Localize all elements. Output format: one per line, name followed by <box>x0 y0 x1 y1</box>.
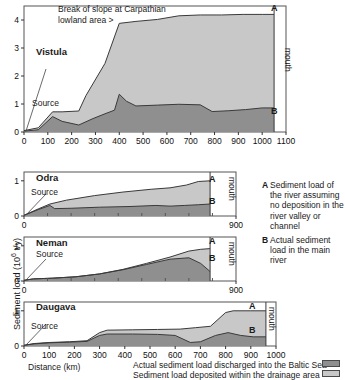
legend-right-item-a: A Sediment load of the river assuming no… <box>262 180 344 231</box>
vistula-mouth-label: mouth <box>283 48 293 72</box>
svg-text:1: 1 <box>14 306 19 316</box>
legend-key-b: B <box>262 235 268 245</box>
svg-text:300: 300 <box>88 136 102 146</box>
svg-text:0: 0 <box>14 127 19 137</box>
x-axis-title-text: Distance (km) <box>28 362 80 372</box>
svg-text:0: 0 <box>14 341 19 351</box>
legend-text-b: Actual sediment load in the main river <box>270 235 344 266</box>
legend-bottom-text-discharged: Actual sediment load discharged into the… <box>133 360 327 370</box>
svg-text:500: 500 <box>136 136 150 146</box>
svg-text:1100: 1100 <box>277 136 296 146</box>
legend-right-item-b: B Actual sediment load in the main river <box>262 235 344 266</box>
vistula-label-a: A <box>271 3 278 13</box>
odra-title-text: Odra <box>36 172 58 183</box>
odra-source-label: Source <box>31 187 58 197</box>
legend-bottom-label-discharged: Actual sediment load discharged into the… <box>133 360 327 370</box>
svg-text:600: 600 <box>168 350 182 360</box>
svg-text:900: 900 <box>229 285 243 295</box>
svg-text:0: 0 <box>14 276 19 286</box>
chart-panel-neman: 010900 Neman Source A B mouth <box>0 233 260 295</box>
svg-text:900: 900 <box>231 136 245 146</box>
legend-bottom-swatch-discharged <box>322 360 340 367</box>
svg-text:3: 3 <box>14 43 19 53</box>
source-text: Source <box>31 187 58 197</box>
svg-text:1: 1 <box>14 99 19 109</box>
svg-text:300: 300 <box>93 350 107 360</box>
label-b-text: B <box>249 325 256 335</box>
label-b-text: B <box>271 106 278 116</box>
neman-mouth-label: mouth <box>227 242 237 266</box>
svg-text:4: 4 <box>14 15 19 25</box>
label-b-text: B <box>209 196 216 206</box>
vistula-label-b: B <box>271 106 278 116</box>
mouth-text: mouth <box>227 242 237 266</box>
svg-text:1000: 1000 <box>253 136 272 146</box>
svg-text:800: 800 <box>219 350 233 360</box>
svg-text:800: 800 <box>207 136 221 146</box>
svg-text:0: 0 <box>22 350 27 360</box>
svg-text:1: 1 <box>14 241 19 251</box>
chart-panel-odra: 010900 Odra Source A B mouth <box>0 168 260 230</box>
svg-text:0: 0 <box>22 136 27 146</box>
neman-title: Neman <box>36 237 68 248</box>
daugava-mouth-label: mouth <box>267 307 277 331</box>
svg-text:0: 0 <box>22 220 27 230</box>
label-b-text: B <box>209 253 216 263</box>
svg-text:700: 700 <box>184 136 198 146</box>
mouth-text: mouth <box>227 177 237 201</box>
svg-text:2: 2 <box>14 71 19 81</box>
annotation-line-2: lowland area > <box>58 15 166 26</box>
chart-panel-vistula: 0123401002003004005006007008009001000110… <box>0 0 310 150</box>
source-text: Source <box>32 98 59 108</box>
vistula-source-label: Source <box>32 98 59 108</box>
legend-text-a: Sediment load of the river assuming no d… <box>270 180 344 231</box>
svg-text:0: 0 <box>14 211 19 221</box>
daugava-title: Daugava <box>36 301 76 312</box>
svg-text:100: 100 <box>41 136 55 146</box>
odra-label-a: A <box>209 174 216 184</box>
neman-label-a: A <box>209 236 216 246</box>
label-a-text: A <box>209 174 216 184</box>
neman-source-label: Source <box>36 249 63 259</box>
daugava-title-text: Daugava <box>36 301 76 312</box>
vistula-title-text: Vistula <box>36 46 67 57</box>
daugava-label-b: B <box>249 325 256 335</box>
legend-key-a: A <box>262 180 268 190</box>
vistula-title: Vistula <box>36 46 67 57</box>
svg-text:400: 400 <box>118 350 132 360</box>
label-a-text: A <box>209 236 216 246</box>
svg-text:600: 600 <box>160 136 174 146</box>
svg-text:400: 400 <box>112 136 126 146</box>
svg-text:1: 1 <box>14 176 19 186</box>
svg-text:200: 200 <box>65 136 79 146</box>
svg-text:900: 900 <box>229 220 243 230</box>
x-axis-title: Distance (km) <box>28 362 80 372</box>
svg-text:0: 0 <box>22 285 27 295</box>
vistula-annotation: Break of slope at Carpathian lowland are… <box>58 4 166 25</box>
legend-bottom-text-deposited: Sediment load deposited within the drain… <box>133 370 320 380</box>
label-a-text: A <box>249 301 256 311</box>
svg-text:100: 100 <box>42 350 56 360</box>
chart-panel-daugava: 0101002003004005006007008009001000 Dauga… <box>0 298 290 360</box>
odra-title: Odra <box>36 172 58 183</box>
svg-text:900: 900 <box>244 350 258 360</box>
svg-text:1000: 1000 <box>267 350 286 360</box>
source-text: Source <box>36 249 63 259</box>
odra-mouth-label: mouth <box>227 177 237 201</box>
mouth-text: mouth <box>283 48 293 72</box>
svg-text:700: 700 <box>193 350 207 360</box>
svg-text:500: 500 <box>143 350 157 360</box>
legend-bottom-label-deposited: Sediment load deposited within the drain… <box>133 370 320 380</box>
odra-label-b: B <box>209 196 216 206</box>
label-a-text: A <box>271 3 278 13</box>
mouth-text: mouth <box>267 307 277 331</box>
daugava-label-a: A <box>249 301 256 311</box>
neman-label-b: B <box>209 253 216 263</box>
daugava-source-label: Source <box>31 321 58 331</box>
neman-title-text: Neman <box>36 237 68 248</box>
source-text: Source <box>31 321 58 331</box>
annotation-line-1: Break of slope at Carpathian <box>58 4 166 15</box>
legend-bottom-swatch-deposited <box>322 370 340 377</box>
svg-text:200: 200 <box>67 350 81 360</box>
